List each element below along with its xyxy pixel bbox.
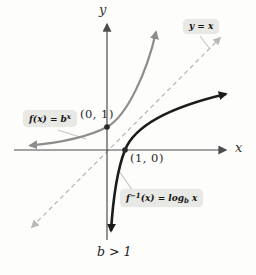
- exp-label-base: f(x) = b: [29, 114, 67, 124]
- plot-canvas: [0, 0, 256, 275]
- point-0-1-label: (0, 1): [80, 109, 114, 121]
- point-0-1: [104, 124, 110, 130]
- point-1-0-label: (1, 0): [130, 153, 164, 165]
- log-curve-label: f−1(x) = logbx: [120, 189, 203, 207]
- leader-line-identity: [200, 36, 210, 49]
- log-label-inverse-exponent: −1: [130, 191, 141, 200]
- x-axis-label: x: [235, 141, 242, 154]
- log-label-mid: (x) = log: [141, 193, 184, 203]
- leader-line-log: [119, 171, 133, 191]
- identity-line-label: y = x: [183, 19, 219, 34]
- exp-curve: [30, 32, 156, 146]
- exp-curve-label: f(x) = bx: [23, 110, 77, 127]
- point-1-0: [122, 147, 128, 153]
- exp-label-exponent: x: [67, 112, 71, 121]
- log-label-argument: x: [192, 193, 197, 203]
- y-axis-label: y: [99, 3, 106, 16]
- base-condition-label: b > 1: [97, 246, 131, 259]
- log-curve: [111, 94, 226, 231]
- inverse-function-graph: y x f(x) = bx y = x f−1(x) = logbx (0, 1…: [0, 0, 256, 275]
- log-label-base-subscript: b: [184, 196, 189, 205]
